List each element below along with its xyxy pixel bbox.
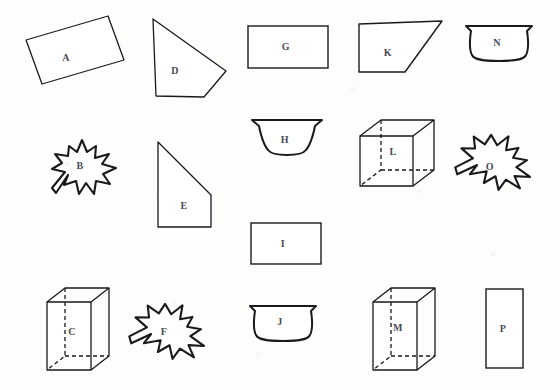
shape-label-m: M [393, 322, 403, 333]
shape-a[interactable] [20, 10, 130, 90]
shape-label-j: J [277, 316, 283, 327]
shape-label-a: A [62, 52, 70, 63]
shape-j[interactable] [248, 302, 318, 346]
shape-o[interactable] [455, 130, 539, 194]
shape-d[interactable] [147, 14, 237, 104]
shape-label-h: H [281, 134, 289, 145]
shape-label-o: O [486, 161, 494, 172]
shape-label-l: L [389, 146, 396, 157]
worksheet-canvas: A D G K N B E [0, 0, 560, 390]
shape-label-i: I [281, 238, 285, 249]
shape-c[interactable] [44, 285, 114, 375]
shape-label-n: N [493, 37, 501, 48]
shape-label-p: P [500, 323, 507, 334]
shape-label-b: B [76, 160, 83, 171]
shape-k[interactable] [357, 18, 449, 80]
shape-label-f: F [161, 326, 168, 337]
shape-label-k: K [384, 47, 392, 58]
shape-i[interactable] [250, 222, 322, 266]
shape-label-d: D [171, 65, 179, 76]
shape-l[interactable] [357, 118, 439, 192]
shape-e[interactable] [156, 140, 218, 230]
shape-b[interactable] [46, 136, 122, 200]
shape-label-c: C [68, 326, 76, 337]
shape-m[interactable] [370, 285, 440, 375]
shape-label-e: E [180, 200, 187, 211]
shape-label-g: G [282, 41, 290, 52]
shape-f[interactable] [129, 299, 213, 363]
